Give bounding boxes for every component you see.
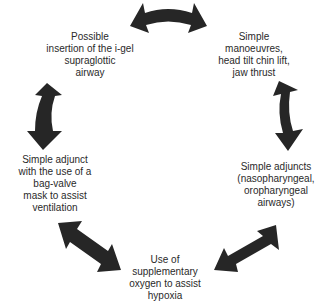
- airway-management-cycle-diagram: Possible insertion of the i-gel supraglo…: [0, 0, 325, 305]
- node-i-gel: Possible insertion of the i-gel supraglo…: [46, 31, 133, 79]
- node-text-line: Simple adjunct: [19, 154, 92, 166]
- node-text-line: Simple adjuncts: [237, 161, 314, 173]
- node-simple-manoeuvres: Simple manoeuvres, head tilt chin lift, …: [218, 31, 290, 79]
- node-text-line: oxygen to assist: [129, 278, 201, 290]
- node-simple-adjuncts: Simple adjuncts (nasopharyngeal, orophar…: [237, 161, 314, 209]
- double-arrow-bottom-left-icon: [58, 221, 121, 272]
- node-text-line: airways): [237, 197, 314, 209]
- double-arrow-left-icon: [27, 83, 62, 150]
- node-text-line: oropharyngeal: [237, 185, 314, 197]
- node-text-line: Simple: [218, 31, 290, 43]
- node-text-line: head tilt chin lift,: [218, 55, 290, 67]
- node-bag-valve-mask: Simple adjunct with the use of a bag-val…: [19, 154, 92, 214]
- node-text-line: jaw thrust: [218, 67, 290, 79]
- node-text-line: Possible: [46, 31, 133, 43]
- node-text-line: Use of: [129, 254, 201, 266]
- node-text-line: supplementary: [129, 266, 201, 278]
- node-text-line: with the use of a: [19, 166, 92, 178]
- node-text-line: hypoxia: [129, 290, 201, 302]
- node-text-line: (nasopharyngeal,: [237, 173, 314, 185]
- node-supplementary-oxygen: Use of supplementary oxygen to assist hy…: [129, 254, 201, 302]
- double-arrow-right-icon: [273, 81, 303, 151]
- node-text-line: mask to assist: [19, 190, 92, 202]
- double-arrow-bottom-right-icon: [214, 225, 279, 272]
- node-text-line: airway: [46, 67, 133, 79]
- node-text-line: supraglottic: [46, 55, 133, 67]
- node-text-line: manoeuvres,: [218, 43, 290, 55]
- node-text-line: ventilation: [19, 202, 92, 214]
- node-text-line: bag-valve: [19, 178, 92, 190]
- node-text-line: insertion of the i-gel: [46, 43, 133, 55]
- double-arrow-top-icon: [130, 3, 207, 33]
